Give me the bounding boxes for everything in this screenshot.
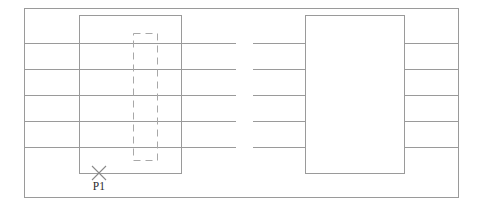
inner-dashed-rectangle xyxy=(134,34,158,161)
horizontal-lines-middle-group xyxy=(253,44,305,148)
diagram-canvas: P1 xyxy=(0,0,483,212)
left-solid-rectangle xyxy=(80,16,182,174)
point-label-p1: P1 xyxy=(93,180,106,192)
horizontal-lines-right-group xyxy=(404,44,458,148)
horizontal-lines-left-group xyxy=(24,44,236,148)
right-solid-rectangle xyxy=(306,16,405,174)
outer-border xyxy=(25,9,459,198)
technical-diagram: P1 xyxy=(0,0,483,212)
